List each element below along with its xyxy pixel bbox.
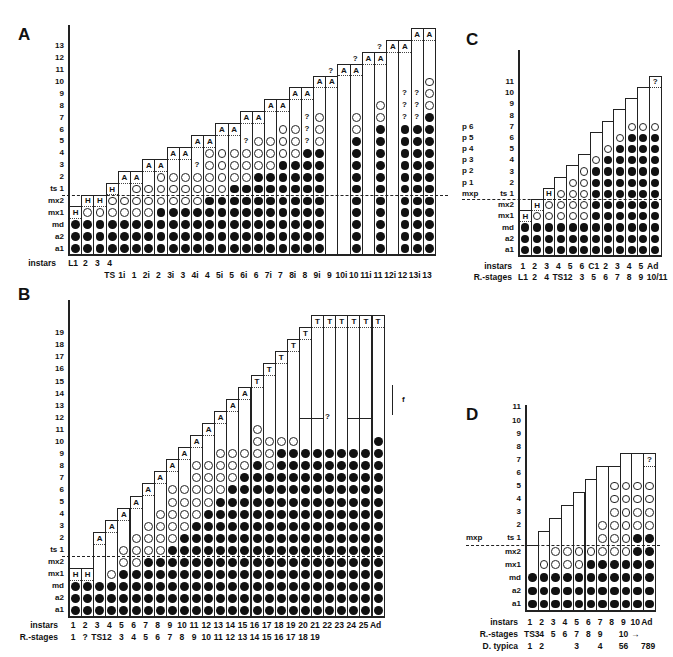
filled-circle — [180, 582, 189, 591]
row-label: 9 — [28, 449, 64, 458]
segment-label-T: T — [336, 316, 347, 328]
instar-tick: 3 — [547, 617, 559, 627]
filled-circle — [598, 587, 607, 596]
filled-circle — [337, 498, 346, 507]
segment-boundary-dashed-line — [62, 556, 385, 557]
row-label: 10 — [28, 77, 64, 86]
segment-label-A: A — [155, 472, 166, 484]
segment-label-A: A — [302, 88, 313, 100]
filled-circle — [628, 201, 636, 209]
open-circle — [622, 534, 631, 543]
open-circle — [156, 510, 165, 519]
filled-circle — [216, 498, 225, 507]
segment-label-A: A — [375, 53, 386, 65]
instar-tick: 7 — [140, 620, 152, 630]
filled-circle — [598, 600, 607, 609]
open-circle — [253, 425, 262, 434]
filled-circle — [528, 600, 537, 609]
filled-circle — [120, 232, 129, 241]
open-circle — [425, 78, 434, 87]
instar-tick: 13 — [212, 620, 224, 630]
appendage-label: p 6 — [462, 122, 484, 131]
r-stage-tick: 8 — [176, 632, 188, 642]
segment-label-A: A — [239, 388, 250, 400]
segment-label-A: A — [399, 41, 410, 53]
instars-label: instars — [10, 620, 58, 630]
question-mark: ? — [402, 88, 407, 97]
open-circle — [205, 149, 214, 158]
filled-circle — [277, 510, 286, 519]
filled-circle — [374, 606, 383, 615]
open-circle — [265, 449, 274, 458]
segment-label-A: A — [227, 400, 238, 412]
filled-circle — [628, 156, 636, 164]
instar-tick: 22 — [321, 620, 333, 630]
segment-label-A: A — [253, 112, 264, 124]
filled-circle — [651, 235, 659, 243]
filled-circle — [374, 473, 383, 482]
instar-tick: 5 — [635, 261, 647, 271]
filled-circle — [313, 510, 322, 519]
instar-tick: 25 — [357, 620, 369, 630]
filled-circle — [204, 522, 213, 531]
filled-circle — [253, 534, 262, 543]
instar-tick: 13 — [421, 270, 433, 280]
row-label: 5 — [28, 136, 64, 145]
filled-circle — [277, 570, 286, 579]
filled-circle — [291, 197, 300, 206]
filled-circle — [169, 208, 178, 217]
instar-tick: 9 — [618, 617, 630, 627]
instar-tick: 2 — [529, 261, 541, 271]
open-circle — [230, 173, 239, 182]
open-circle — [651, 123, 659, 131]
r-stage-tick: TS1 — [552, 272, 564, 282]
r-stage-tick: 10 — [200, 632, 212, 642]
filled-circle — [289, 546, 298, 555]
filled-circle — [230, 244, 239, 253]
filled-circle — [628, 223, 636, 231]
filled-circle — [181, 232, 190, 241]
column-9 — [325, 76, 338, 256]
filled-circle — [242, 197, 251, 206]
open-circle — [156, 546, 165, 555]
filled-circle — [301, 522, 310, 531]
filled-circle — [413, 173, 422, 182]
open-circle — [181, 173, 190, 182]
filled-circle — [374, 558, 383, 567]
row-label: 4 — [28, 509, 64, 518]
filled-circle — [120, 244, 129, 253]
filled-circle — [303, 220, 312, 229]
row-label: a2 — [478, 234, 514, 243]
filled-circle — [253, 546, 262, 555]
filled-circle — [628, 212, 636, 220]
open-circle — [425, 101, 434, 110]
open-circle — [266, 149, 275, 158]
column-11i — [362, 52, 375, 255]
row-label: a1 — [28, 244, 64, 253]
filled-circle — [598, 573, 607, 582]
row-label: mx2 — [485, 547, 521, 556]
filled-circle — [413, 220, 422, 229]
d-typica-tick: 789 — [641, 641, 653, 651]
filled-circle — [277, 534, 286, 543]
filled-circle — [303, 149, 312, 158]
filled-circle — [168, 594, 177, 603]
filled-circle — [230, 220, 239, 229]
open-circle — [204, 498, 213, 507]
filled-circle — [374, 546, 383, 555]
filled-circle — [265, 558, 274, 567]
appendage-label: p 5 — [462, 133, 484, 142]
open-circle — [168, 498, 177, 507]
filled-circle — [628, 167, 636, 175]
filled-circle — [337, 510, 346, 519]
question-mark: ? — [377, 42, 382, 51]
filled-circle — [604, 190, 612, 198]
instar-tick: 4 — [559, 617, 571, 627]
filled-circle — [254, 173, 263, 182]
segment-boundary-dashed-line — [462, 199, 662, 200]
filled-circle — [301, 498, 310, 507]
filled-circle — [277, 582, 286, 591]
question-mark: ? — [304, 136, 309, 145]
open-circle — [622, 521, 631, 530]
filled-circle — [651, 179, 659, 187]
